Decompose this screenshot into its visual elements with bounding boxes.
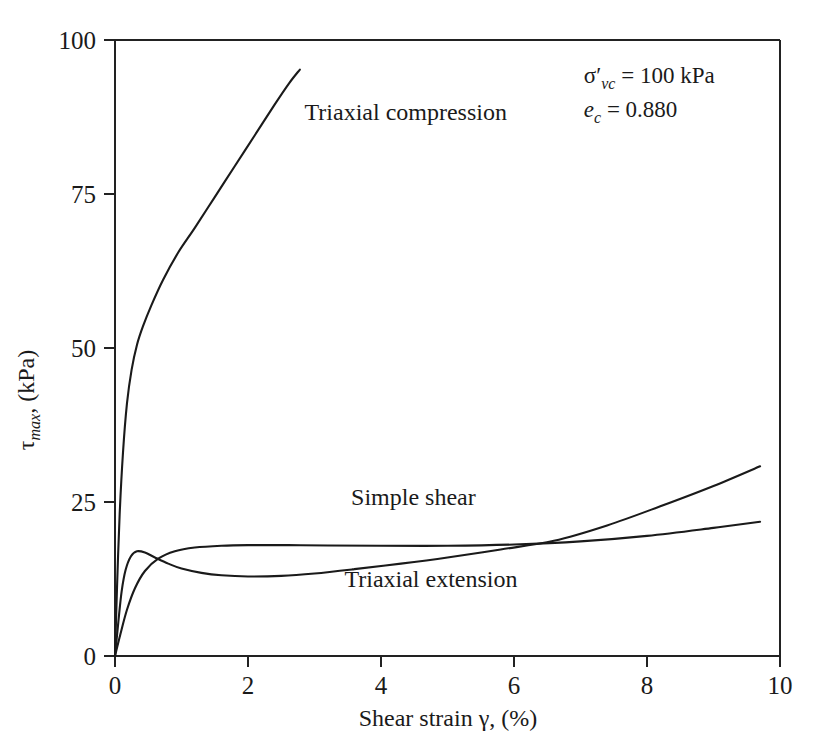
y-tick-label-0: 0 [84, 643, 97, 670]
curve-label-triaxial-extension: Triaxial extension [344, 566, 517, 592]
x-tick-label-10: 10 [768, 672, 793, 699]
x-tick-label-6: 6 [508, 672, 521, 699]
x-axis-title: Shear strain γ, (%) [359, 705, 538, 731]
curve-label-simple-shear: Simple shear [351, 484, 476, 510]
y-tick-label-100: 100 [59, 27, 97, 54]
shear-stress-strain-chart: 0255075100 0246810 Triaxial compressionS… [0, 0, 827, 754]
chart-figure: 0255075100 0246810 Triaxial compressionS… [0, 0, 827, 754]
x-tick-label-4: 4 [375, 672, 388, 699]
y-tick-label-25: 25 [71, 489, 96, 516]
x-tick-label-8: 8 [641, 672, 654, 699]
curve-label-triaxial-compression: Triaxial compression [305, 99, 507, 125]
x-tick-label-0: 0 [109, 672, 122, 699]
y-tick-label-50: 50 [71, 335, 96, 362]
y-tick-label-75: 75 [71, 181, 96, 208]
x-tick-label-2: 2 [242, 672, 255, 699]
